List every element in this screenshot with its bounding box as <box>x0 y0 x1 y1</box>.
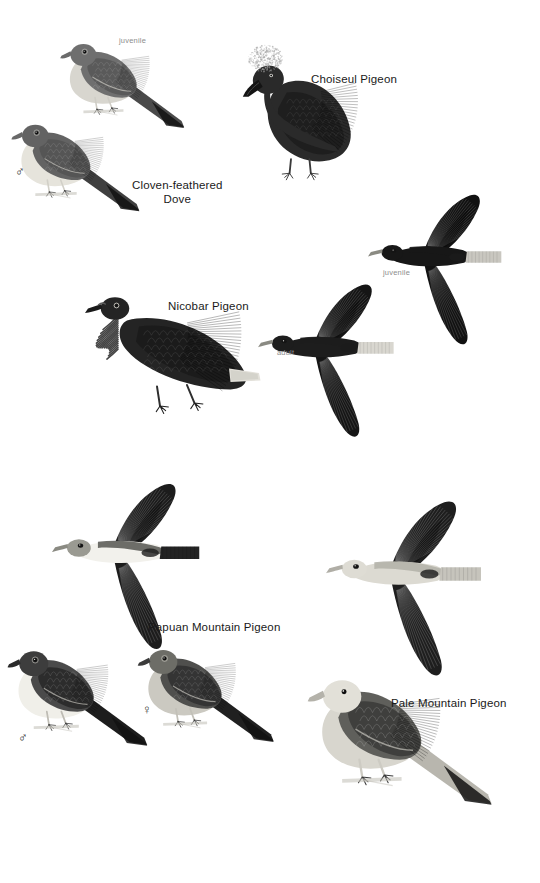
illustration-plate: Cloven-feathered DoveChoiseul PigeonNico… <box>0 0 540 883</box>
cloven-feathered-dove-male <box>6 104 166 264</box>
sex-symbol-cloven-male: ♂ <box>15 165 25 178</box>
papuan-mountain-pigeon-female <box>132 634 302 792</box>
age-label-nicobar-adult: adult <box>277 348 294 357</box>
age-label-cloven-juvenile: juvenile <box>119 36 146 45</box>
sex-symbol-papuan-male: ♂ <box>18 731 28 744</box>
nicobar-pigeon-perched <box>52 286 292 451</box>
age-label-nicobar-juvenile: juvenile <box>383 268 410 277</box>
pale-mountain-pigeon-perched <box>300 658 530 873</box>
sex-symbol-papuan-female: ♀ <box>142 703 152 716</box>
